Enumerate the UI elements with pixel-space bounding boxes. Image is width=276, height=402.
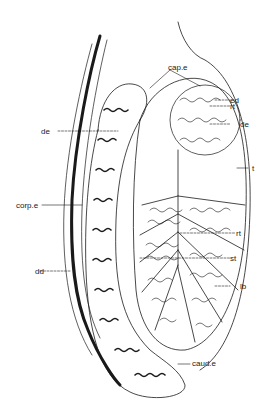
- label-rete-testis-top: rt: [230, 102, 235, 111]
- label-ductus-deferens: dd: [35, 267, 44, 276]
- label-seminiferous-tubule: st: [230, 254, 236, 263]
- label-corpus-epididymis: corp.e: [16, 201, 38, 210]
- label-tunica: t: [252, 164, 254, 173]
- label-ductus-epididymidis-right: de: [240, 120, 249, 129]
- label-lobule: lb: [240, 282, 246, 291]
- testis-outline: [133, 78, 246, 350]
- anatomy-diagram: [0, 0, 276, 402]
- tunica-outline: [178, 22, 250, 370]
- label-ductus-epididymidis-left: de: [41, 127, 50, 136]
- label-rete-testis-mid: rt: [236, 229, 241, 238]
- label-caput-epididymis: cap.e: [168, 63, 188, 72]
- ductus-deferens: [72, 36, 120, 385]
- label-cauda-epididymis: caud.e: [192, 359, 216, 368]
